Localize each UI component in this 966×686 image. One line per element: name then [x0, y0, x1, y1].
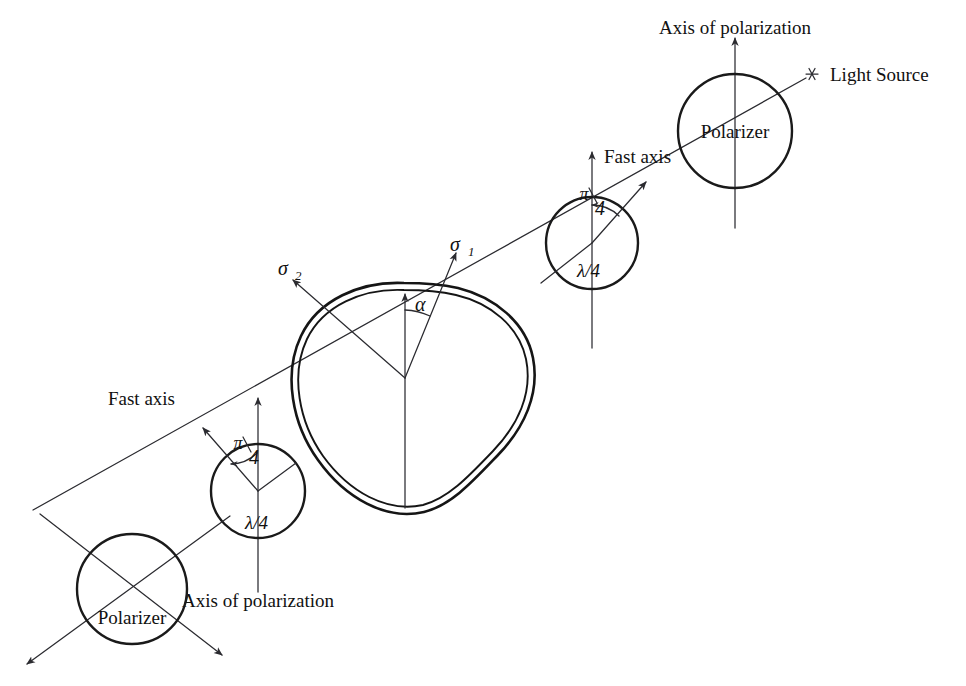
sigma-1-arrow: [405, 253, 456, 378]
specimen-outline-outer: [292, 283, 535, 514]
sigma-2-symbol: σ: [278, 257, 289, 279]
polarizer-top-group: Polarizer Axis of polarization: [659, 17, 811, 228]
quarter-wave-plate-top-group: π 4 λ/4 Fast axis: [541, 146, 671, 348]
axis-of-polarization-bottom-label: Axis of polarization: [182, 590, 334, 611]
qwp-bottom-fast-axis-label: Fast axis: [108, 388, 175, 409]
sigma-1-label: σ 1: [450, 233, 474, 259]
polarizer-bottom-group: Polarizer: [27, 514, 230, 664]
specimen-outline-inner: [298, 290, 527, 507]
sigma-2-arrow: [293, 280, 405, 378]
light-source-icon: [806, 69, 818, 80]
light-source-label: Light Source: [830, 64, 929, 85]
qwp-top-fast-axis-label: Fast axis: [604, 146, 671, 167]
qwp-bottom-angle-denominator: 4: [249, 446, 259, 468]
alpha-angle-label: α: [415, 293, 426, 315]
light-source-group: Light Source: [806, 64, 929, 85]
qwp-bottom-retardation-label: λ/4: [244, 512, 269, 533]
quarter-wave-plate-bottom-group: π 4 λ/4 Fast axis Axis of polarization: [108, 388, 335, 611]
sigma-1-subscript: 1: [468, 244, 475, 259]
qwp-top-angle-numerator: π: [579, 184, 589, 204]
qwp-bottom-secondary-ray: [258, 463, 296, 491]
polariscope-diagram: Light Source Polarizer Axis of polarizat…: [0, 0, 966, 686]
specimen-group: σ 1 σ 2 α: [278, 233, 535, 514]
polarizer-top-label: Polarizer: [701, 121, 770, 142]
qwp-top-retardation-label: λ/4: [576, 260, 601, 281]
axis-of-polarization-top-label: Axis of polarization: [659, 17, 811, 38]
sigma-2-label: σ 2: [278, 257, 302, 283]
polariscope-svg: Light Source Polarizer Axis of polarizat…: [0, 0, 966, 686]
qwp-top-angle-denominator: 4: [595, 197, 605, 219]
qwp-bottom-angle-numerator: π: [233, 433, 243, 453]
polarizer-bottom-label: Polarizer: [98, 607, 167, 628]
sigma-1-symbol: σ: [450, 233, 461, 255]
sigma-2-subscript: 2: [295, 268, 302, 283]
